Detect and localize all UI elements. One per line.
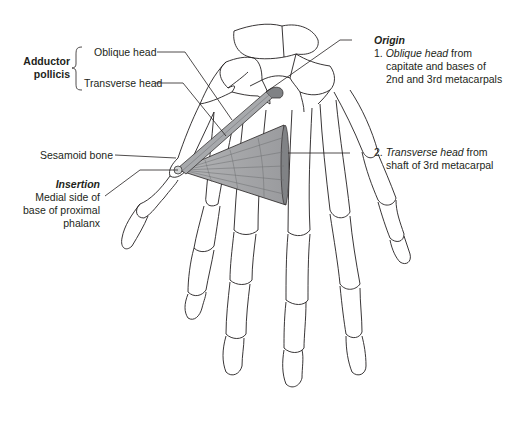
insertion-line: base of proximal xyxy=(23,204,100,217)
insertion-block: Insertion Medial side of base of proxima… xyxy=(23,178,100,230)
insertion-line: phalanx xyxy=(23,217,100,230)
bracket xyxy=(72,47,82,90)
origin-item-2-rest: from xyxy=(464,146,488,158)
fourth-finger-bones xyxy=(320,100,366,375)
label-transverse-head: Transverse head xyxy=(84,77,162,90)
origin-item-1-line3: 2nd and 3rd metacarpals xyxy=(374,73,502,86)
muscle-name: Adductor pollicis xyxy=(23,55,70,81)
origin-item-2-line2: shaft of 3rd metacarpal xyxy=(374,159,493,172)
muscle-name-line2: pollicis xyxy=(23,68,70,81)
origin-item-1-rest: from xyxy=(448,47,472,59)
origin-item-1: 1. Oblique head from xyxy=(374,47,502,60)
origin-item-1-line2: capitate and bases of xyxy=(374,60,502,73)
origin-item-2-italic: Transverse head xyxy=(386,146,464,158)
origin-item-1-italic: Oblique head xyxy=(386,47,448,59)
origin-item-2-number: 2. xyxy=(374,146,383,158)
insertion-line: Medial side of xyxy=(23,191,100,204)
label-oblique-head: Oblique head xyxy=(94,46,156,59)
muscle-name-line1: Adductor xyxy=(23,55,70,68)
insertion-title: Insertion xyxy=(23,178,100,191)
origin-title: Origin xyxy=(374,34,502,47)
origin-item-1-number: 1. xyxy=(374,47,383,59)
origin-item-2: 2. Transverse head from shaft of 3rd met… xyxy=(374,146,493,172)
label-sesamoid-bone: Sesamoid bone xyxy=(40,149,113,162)
adductor-pollicis-muscle xyxy=(174,87,289,205)
origin-block: Origin 1. Oblique head from capitate and… xyxy=(374,34,502,86)
